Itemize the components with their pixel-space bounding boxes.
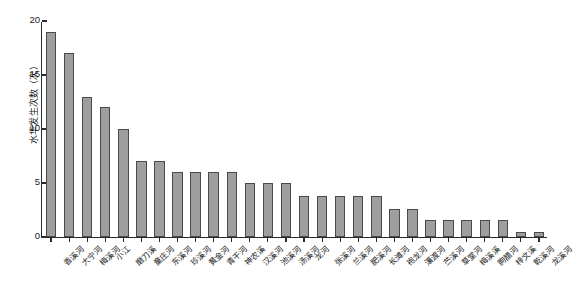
- x-tick-mark: [69, 237, 70, 242]
- bar-slot: [136, 22, 146, 237]
- bar-slot: [516, 22, 526, 237]
- bar-slot: [353, 22, 363, 237]
- bar-slot: [407, 22, 417, 237]
- plot-area: 05101520: [41, 22, 547, 238]
- bar-slot: [82, 22, 92, 237]
- x-tick-label: 东溪河: [169, 243, 194, 268]
- bar-slot: [118, 22, 128, 237]
- x-tick-mark: [141, 237, 142, 242]
- bar[interactable]: [389, 209, 399, 237]
- y-tick-label: 20: [29, 14, 40, 25]
- y-tick-label: 15: [29, 68, 40, 79]
- x-tick-mark: [502, 237, 503, 242]
- bar[interactable]: [425, 220, 435, 237]
- x-tick-mark: [195, 237, 196, 242]
- bar[interactable]: [227, 172, 237, 237]
- bar-slot: [281, 22, 291, 237]
- bar-slot: [227, 22, 237, 237]
- bar-slot: [64, 22, 74, 237]
- x-tick-mark: [340, 237, 341, 242]
- bar[interactable]: [480, 220, 490, 237]
- x-tick-mark: [412, 237, 413, 242]
- bar[interactable]: [46, 32, 56, 237]
- x-tick-label: 瀼渡河: [422, 243, 447, 268]
- bar-slot: [461, 22, 471, 237]
- bar-slot: [190, 22, 200, 237]
- bar[interactable]: [353, 196, 363, 237]
- x-tick-mark: [105, 237, 106, 242]
- x-tick-mark: [484, 237, 485, 242]
- bar[interactable]: [461, 220, 471, 237]
- bar-slot: [263, 22, 273, 237]
- x-tick-label: 珍溪河: [188, 243, 213, 268]
- x-tick-mark: [249, 237, 250, 242]
- x-tick-mark: [358, 237, 359, 242]
- bar-slot: [389, 22, 399, 237]
- bar[interactable]: [498, 220, 508, 237]
- x-tick-mark: [177, 237, 178, 242]
- bar[interactable]: [64, 53, 74, 237]
- bar[interactable]: [172, 172, 182, 237]
- x-tick-mark: [231, 237, 232, 242]
- bar-slot: [100, 22, 110, 237]
- bar-slot: [245, 22, 255, 237]
- x-tick-mark: [394, 237, 395, 242]
- x-tick-mark: [376, 237, 377, 242]
- bar[interactable]: [82, 97, 92, 237]
- x-tick-mark: [87, 237, 88, 242]
- bar[interactable]: [118, 129, 128, 237]
- x-tick-mark: [159, 237, 160, 242]
- x-tick-mark: [303, 237, 304, 242]
- bar-slot: [154, 22, 164, 237]
- x-tick-mark: [213, 237, 214, 242]
- x-tick-mark: [322, 237, 323, 242]
- bar-slot: [172, 22, 182, 237]
- x-tick-mark: [538, 237, 539, 242]
- bar-slot: [299, 22, 309, 237]
- bar-slot: [371, 22, 381, 237]
- y-tick-label: 5: [35, 176, 40, 187]
- bar[interactable]: [443, 220, 453, 237]
- bar[interactable]: [281, 183, 291, 237]
- x-tick-mark: [466, 237, 467, 242]
- bar[interactable]: [407, 209, 417, 237]
- bar[interactable]: [208, 172, 218, 237]
- bar[interactable]: [154, 161, 164, 237]
- bar[interactable]: [371, 196, 381, 237]
- x-tick-mark: [448, 237, 449, 242]
- bar-slot: [498, 22, 508, 237]
- bar[interactable]: [299, 196, 309, 237]
- x-tick-mark: [430, 237, 431, 242]
- bar[interactable]: [136, 161, 146, 237]
- x-tick-mark: [520, 237, 521, 242]
- bar[interactable]: [100, 107, 110, 237]
- bar-slot: [480, 22, 490, 237]
- x-tick-mark: [267, 237, 268, 242]
- bar[interactable]: [190, 172, 200, 237]
- bar[interactable]: [245, 183, 255, 237]
- y-tick-label: 0: [35, 230, 40, 241]
- bar[interactable]: [317, 196, 327, 237]
- bar-slot: [425, 22, 435, 237]
- x-tick-mark: [285, 237, 286, 242]
- y-axis-label: 水华发生次数（次）: [27, 18, 40, 188]
- y-tick-label: 10: [29, 122, 40, 133]
- x-tick-mark: [123, 237, 124, 242]
- bar-slot: [443, 22, 453, 237]
- x-tick-label: 苎溪河: [441, 243, 466, 268]
- x-tick-mark: [50, 237, 51, 242]
- bar[interactable]: [263, 183, 273, 237]
- bar-slot: [46, 22, 56, 237]
- bar-series: [42, 22, 547, 237]
- bar-slot: [208, 22, 218, 237]
- bar-slot: [317, 22, 327, 237]
- bar-slot: [534, 22, 544, 237]
- bar-slot: [335, 22, 345, 237]
- bar[interactable]: [335, 196, 345, 237]
